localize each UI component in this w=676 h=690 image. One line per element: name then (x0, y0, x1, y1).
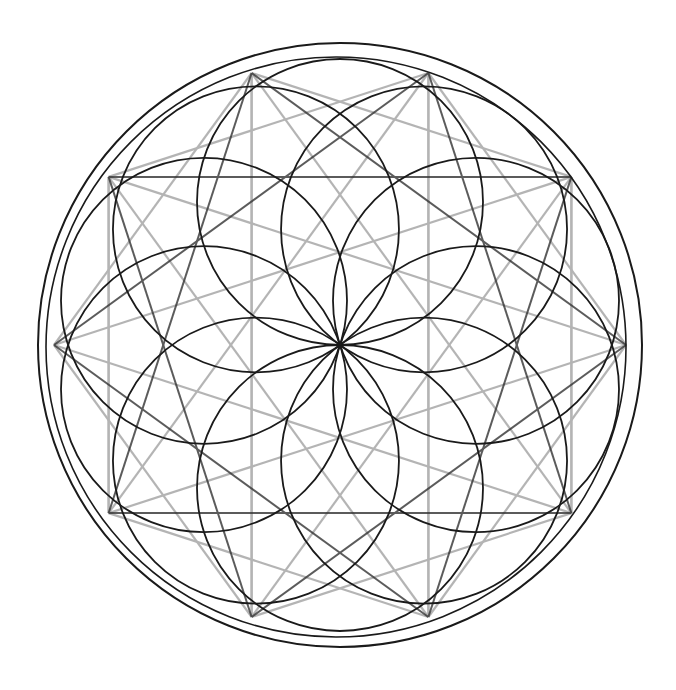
construction-line (252, 177, 572, 617)
construction-line (54, 73, 252, 345)
construction-line (252, 513, 572, 617)
construction-line (54, 345, 252, 617)
petal-circle (333, 246, 619, 532)
construction-line (109, 73, 429, 513)
construction-line (109, 177, 429, 617)
geometry-drawing (0, 0, 676, 690)
construction-line (428, 345, 626, 617)
construction-line (109, 513, 429, 617)
petal-circle (61, 246, 347, 532)
petal-circles (61, 59, 619, 631)
construction-line (252, 73, 572, 513)
petal-circle (333, 158, 619, 444)
construction-line (428, 73, 626, 345)
petal-circle (61, 158, 347, 444)
construction-line (109, 73, 429, 177)
